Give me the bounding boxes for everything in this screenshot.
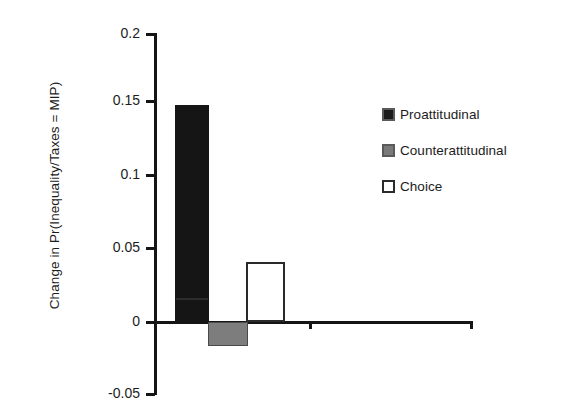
black-square-icon [382, 108, 395, 121]
bar-banding-artifact [176, 298, 208, 300]
y-tick-label-0.2: 0.2 [40, 25, 140, 41]
legend-item-counterattitudinal[interactable]: Counterattitudinal [382, 132, 557, 168]
x-tick-mark-2 [470, 321, 473, 329]
bar-choice[interactable] [246, 262, 285, 322]
legend-item-choice[interactable]: Choice [382, 168, 557, 204]
y-tick-label-wrap-0: 0 [36, 313, 140, 331]
y-tick-mark-0.1 [146, 174, 155, 177]
white-square-icon [382, 180, 395, 193]
y-tick-label-wrap-0.2: 0.2 [36, 25, 140, 43]
y-tick-mark--0.05 [146, 393, 155, 396]
y-tick-label-wrap--0.05: -0.05 [36, 385, 140, 403]
y-tick-label-wrap-0.1: 0.1 [36, 166, 140, 184]
legend-label-counterattitudinal: Counterattitudinal [400, 143, 507, 158]
legend-label-choice: Choice [400, 179, 442, 194]
legend-label-proattitudinal: Proattitudinal [400, 107, 480, 122]
legend: Proattitudinal Counterattitudinal Choice [382, 96, 557, 204]
y-axis-label: Change in Pr(Inequality/Taxes = MIP) [47, 46, 62, 346]
y-tick-mark-0 [146, 321, 155, 324]
y-tick-label--0.05: -0.05 [40, 385, 140, 401]
bar-counterattitudinal[interactable] [208, 322, 248, 346]
y-tick-mark-0.05 [146, 247, 155, 250]
y-tick-label-0: 0 [40, 313, 140, 329]
y-tick-label-wrap-0.05: 0.05 [36, 239, 140, 257]
y-axis-line [154, 33, 157, 395]
y-tick-label-0.15: 0.15 [40, 92, 140, 108]
x-tick-mark-1 [309, 321, 312, 329]
bar-proattitudinal[interactable] [175, 105, 209, 322]
y-tick-mark-0.15 [146, 100, 155, 103]
y-tick-label-0.05: 0.05 [40, 239, 140, 255]
bar-chart-figure: Change in Pr(Inequality/Taxes = MIP) 0.2… [0, 0, 562, 420]
y-tick-label-0.1: 0.1 [40, 166, 140, 182]
y-tick-mark-0.2 [146, 33, 155, 36]
legend-item-proattitudinal[interactable]: Proattitudinal [382, 96, 557, 132]
gray-square-icon [382, 144, 395, 157]
y-tick-label-wrap-0.15: 0.15 [36, 92, 140, 110]
